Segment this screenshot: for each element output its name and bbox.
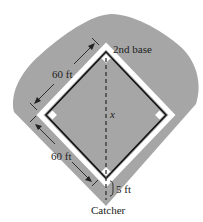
catcher-offset-label: 5 ft (116, 183, 131, 195)
distance-variable-label: x (109, 108, 115, 120)
baseball-diamond-diagram: 60 ft 60 ft 2nd base x 5 ft Catcher (0, 0, 203, 222)
second-base-label: 2nd base (113, 43, 152, 55)
catcher-label: Catcher (91, 204, 126, 216)
side-length-label-bottom: 60 ft (51, 150, 71, 162)
side-length-label-top: 60 ft (52, 68, 72, 80)
